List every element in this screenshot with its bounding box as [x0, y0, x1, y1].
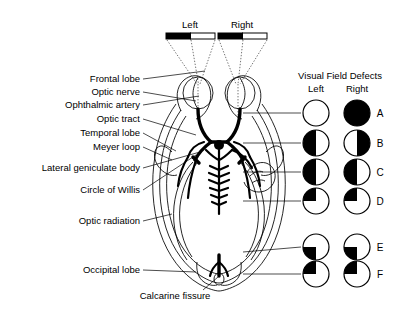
- figure-canvas: Left Right Visual Field Defects Left Rig…: [0, 0, 394, 309]
- leader-optic-tract: [143, 119, 196, 135]
- defect-circles: [303, 100, 370, 287]
- label-meyer-loop: Meyer loop: [93, 142, 140, 152]
- label-frontal-lobe: Frontal lobe: [90, 74, 140, 84]
- label-temporal-lobe: Temporal lobe: [80, 128, 140, 138]
- defect-d-left-defect: [303, 188, 316, 201]
- defect-row-letter-d: D: [376, 196, 383, 207]
- anatomy-illustration: [0, 0, 394, 309]
- leader-optic-radiation: [143, 214, 172, 221]
- defect-b-right-defect: [357, 130, 370, 156]
- defect-row-letter-f: F: [377, 269, 383, 280]
- defect-row-letter-e: E: [377, 242, 384, 253]
- defect-a-left: [303, 100, 329, 126]
- leader-occipital-lobe: [143, 270, 196, 272]
- defect-c-right-defect: [344, 159, 357, 185]
- leader-lateral-geniculate-body: [143, 152, 200, 168]
- leader-meyer-loop: [143, 147, 172, 160]
- defect-c-left-defect: [303, 159, 316, 185]
- occipital-calcarine: [197, 255, 241, 285]
- defect-f-right-defect: [344, 261, 357, 274]
- label-calcarine-fissure: Calcarine fissure: [140, 291, 211, 301]
- defect-f-left-defect: [303, 261, 316, 274]
- defect-leader-lines: [243, 113, 301, 274]
- defect-e-right-defect: [344, 247, 357, 260]
- defect-col-right-label: Right: [346, 83, 368, 94]
- defect-b-left-defect: [303, 130, 316, 156]
- defect-e-left-defect: [303, 247, 316, 260]
- defect-row-letter-c: C: [376, 167, 383, 178]
- leader-frontal-lobe: [143, 71, 205, 79]
- stimulus-left-label: Left: [182, 19, 198, 30]
- defect-panel-title: Visual Field Defects: [298, 70, 382, 81]
- circle-of-willis: [178, 142, 260, 214]
- label-ophthalmic-artery: Ophthalmic artery: [65, 100, 140, 110]
- defect-row-letter-b: B: [377, 138, 384, 149]
- leader-ophthalmic-artery: [143, 96, 199, 105]
- label-optic-tract: Optic tract: [97, 114, 140, 124]
- defect-a-right: [344, 100, 370, 126]
- defect-row-letter-a: A: [377, 108, 384, 119]
- label-optic-nerve: Optic nerve: [91, 87, 140, 97]
- stimulus-bars: [166, 33, 267, 39]
- label-optic-radiation: Optic radiation: [79, 216, 140, 226]
- defect-d-right-defect: [344, 188, 357, 201]
- stimulus-right-label: Right: [231, 19, 253, 30]
- leader-optic-nerve: [143, 92, 196, 101]
- label-circle-of-willis: Circle of Willis: [80, 185, 140, 195]
- label-lateral-geniculate-body: Lateral geniculate body: [42, 163, 140, 173]
- defect-col-left-label: Left: [308, 83, 324, 94]
- label-occipital-lobe: Occipital lobe: [83, 265, 140, 275]
